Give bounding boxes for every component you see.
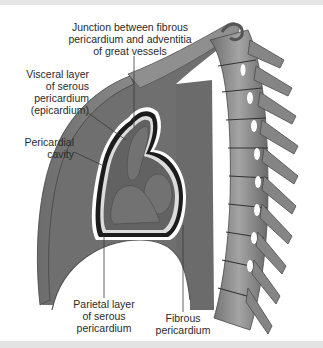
bottom-border-band [0,341,323,348]
label-parietal-layer: Parietal layer of serous pericardium [64,298,144,334]
label-junction: Junction between fibrous pericardium and… [60,21,200,57]
label-fibrous-pericardium: Fibrous pericardium [150,312,216,336]
label-visceral-layer: Visceral layer of serous pericardium (ep… [2,68,89,116]
thoracic-spine [210,24,298,334]
label-pericardial-cavity: Pericardial cavity [2,136,74,160]
